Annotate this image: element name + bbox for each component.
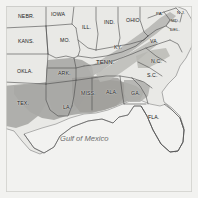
- state-label-arkansas: ARK.: [58, 70, 71, 76]
- state-label-florida: FLA.: [148, 114, 159, 120]
- gulf-of-mexico-label: Gulf of Mexico: [60, 134, 109, 143]
- state-label-illinois: ILL.: [82, 24, 91, 30]
- state-label-delaware: DEL.: [170, 27, 180, 32]
- state-label-mississippi: MISS.: [81, 90, 96, 96]
- state-label-nebraska: NEBR.: [18, 13, 34, 19]
- state-label-louisiana: LA.: [63, 104, 71, 110]
- state-label-missouri: MO.: [60, 37, 70, 43]
- state-label-kansas: KANS.: [18, 38, 34, 44]
- state-label-new-jersey: N.J.: [177, 10, 185, 15]
- state-label-north-carolina: N.C.: [151, 58, 162, 64]
- map-frame: NEBR.IOWAILL.IND.OHIOPA.N.J.MD.DEL.KANS.…: [0, 0, 198, 198]
- state-label-oklahoma: OKLA.: [17, 68, 33, 74]
- state-label-kentucky: KY.: [114, 44, 122, 50]
- state-label-virginia: VA.: [150, 38, 158, 44]
- state-label-tennessee: TENN.: [96, 59, 115, 65]
- state-label-south-carolina: S.C.: [147, 72, 158, 78]
- state-label-pennsylvania: PA.: [156, 11, 163, 16]
- state-label-alabama: ALA.: [106, 89, 118, 95]
- state-label-texas: TEX.: [17, 100, 29, 106]
- state-label-georgia: GA.: [131, 90, 140, 96]
- map-graphic: [0, 0, 198, 198]
- state-label-iowa: IOWA: [51, 11, 65, 17]
- state-label-ohio: OHIO: [126, 17, 140, 23]
- state-label-maryland: MD.: [171, 18, 179, 23]
- state-label-indiana: IND.: [104, 19, 115, 25]
